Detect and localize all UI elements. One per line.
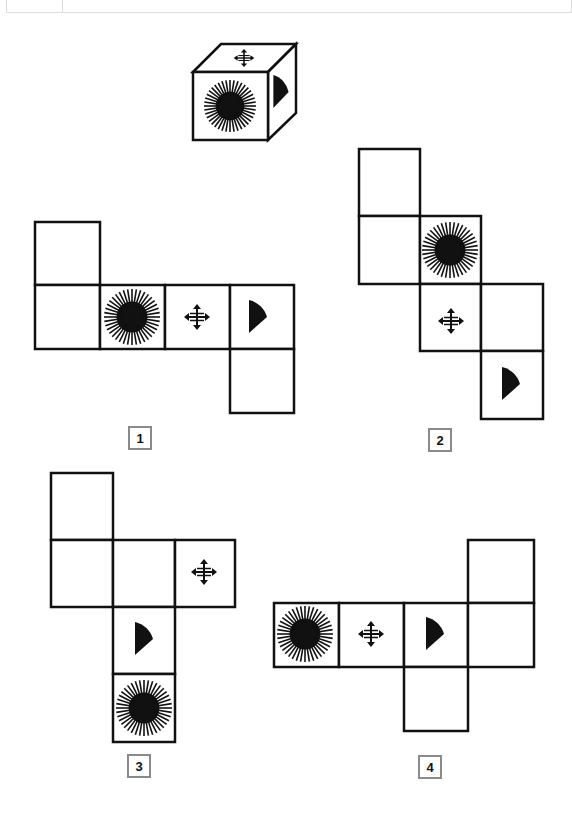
net4-face-5: [468, 603, 534, 667]
net3-face-2: [51, 540, 113, 607]
net-option-2[interactable]: [359, 149, 543, 419]
net4-sunburst-icon: [277, 606, 333, 662]
option-label-2-text: 2: [436, 433, 443, 448]
net1-face-2: [35, 285, 100, 349]
option-label-4-text: 4: [426, 760, 433, 775]
net2-face-1: [359, 149, 420, 216]
net-option-3[interactable]: [51, 473, 235, 742]
net2-sunburst-icon: [422, 222, 478, 278]
net4-face-6: [404, 667, 468, 731]
net1-face-6: [230, 349, 294, 413]
net2-face-2: [359, 216, 420, 284]
option-label-4[interactable]: 4: [418, 755, 442, 779]
option-label-3-text: 3: [135, 759, 142, 774]
net4-face-1: [468, 540, 534, 603]
net3-sunburst-icon: [116, 680, 172, 736]
net1-face-1: [35, 222, 100, 285]
option-label-3[interactable]: 3: [127, 754, 151, 778]
net2-face-5: [481, 284, 543, 351]
net3-face-3: [113, 540, 175, 607]
net1-sunburst-icon: [104, 289, 160, 345]
option-label-1-text: 1: [136, 431, 143, 446]
net-option-4[interactable]: [274, 540, 534, 731]
net-option-1[interactable]: [35, 222, 294, 413]
option-label-2[interactable]: 2: [428, 428, 452, 452]
option-label-1[interactable]: 1: [128, 426, 152, 450]
net3-face-1: [51, 473, 113, 540]
cube-front-sunburst-icon: [204, 80, 256, 132]
question-cube: [193, 44, 296, 140]
